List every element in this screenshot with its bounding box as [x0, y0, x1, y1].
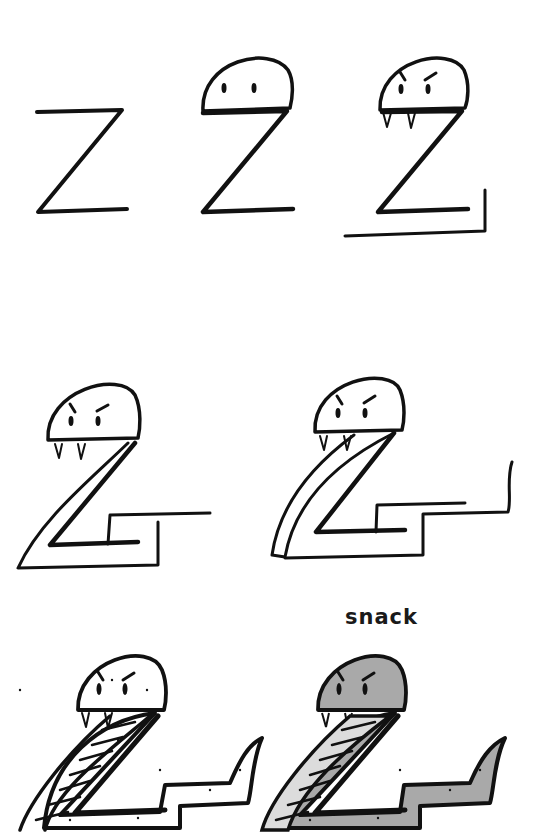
step-1-letter-z: [37, 110, 127, 212]
snack-caption: snack: [345, 605, 418, 629]
step-7-colored-snake: [262, 656, 505, 830]
step-6-detailed-snake: [19, 656, 262, 830]
eye-icon: [252, 83, 257, 93]
step-5-belly-and-tail: [272, 378, 512, 558]
drawing-tutorial-canvas: [0, 0, 550, 839]
step-4-outlined-snake: [18, 384, 210, 568]
eye-icon: [222, 83, 227, 93]
step-2-z-with-head: [203, 58, 293, 212]
step-3-angry-snake: [345, 58, 485, 236]
